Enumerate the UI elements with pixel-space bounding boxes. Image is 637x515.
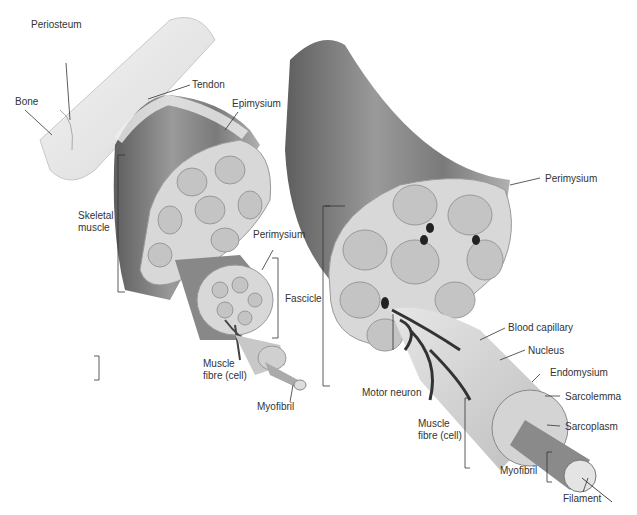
skeletal-muscle-shape <box>114 95 306 390</box>
label-fascicle: Fascicle <box>285 293 322 305</box>
label-blood-capillary: Blood capillary <box>508 322 573 334</box>
label-muscle-fibre-left-line2: fibre (cell) <box>203 370 247 382</box>
diagram-artwork <box>0 0 637 515</box>
label-epimysium: Epimysium <box>232 98 281 110</box>
label-muscle-fibre-left-line1: Muscle <box>203 358 235 370</box>
label-skeletal-muscle-line2: muscle <box>78 222 110 234</box>
label-filament: Filament <box>563 493 601 505</box>
label-bone: Bone <box>15 96 38 108</box>
label-muscle-fibre-right-line2: fibre (cell) <box>418 430 462 442</box>
label-skeletal-muscle-line1: Skeletal <box>78 210 114 222</box>
label-periosteum: Periosteum <box>31 19 82 31</box>
label-nucleus: Nucleus <box>528 345 564 357</box>
label-sarcolemma: Sarcolemma <box>565 391 621 403</box>
label-myofibril-left: Myofibril <box>257 401 294 413</box>
label-perimysium-left: Perimysium <box>253 229 305 241</box>
label-perimysium-right: Perimysium <box>545 173 597 185</box>
label-endomysium: Endomysium <box>550 367 608 379</box>
label-motor-neuron: Motor neuron <box>362 387 421 399</box>
label-myofibril-right: Myofibril <box>500 465 537 477</box>
label-muscle-fibre-right-line1: Muscle <box>418 418 450 430</box>
label-tendon: Tendon <box>192 79 225 91</box>
muscle-structure-diagram: Periosteum Bone Tendon Epimysium Skeleta… <box>0 0 637 515</box>
label-sarcoplasm: Sarcoplasm <box>565 421 618 433</box>
